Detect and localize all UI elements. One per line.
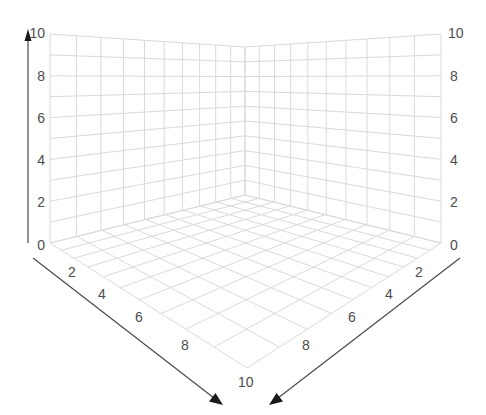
grid-line	[161, 225, 366, 314]
3d-grid-chart: 10 8 6 4 2 0 10 8 6 4 2 0 2 4 6 8 10 2 4…	[0, 0, 486, 415]
z-tick-label: 8	[37, 68, 45, 84]
right-wall-grid	[245, 34, 441, 243]
left-wall-grid	[50, 34, 245, 243]
z-tick-label: 2	[37, 194, 45, 210]
z-tick-label: 6	[37, 110, 45, 126]
z-tick-labels-left: 10 8 6 4 2 0	[29, 25, 45, 253]
y-tick-label: 8	[302, 337, 310, 353]
y-axis	[269, 258, 460, 405]
grid-line	[77, 236, 279, 347]
grid-line	[186, 230, 389, 329]
floor-grid	[50, 195, 441, 368]
x-tick-label: 2	[68, 264, 76, 280]
z-tick-label: 10	[448, 25, 464, 41]
x-tick-labels: 2 4 6 8 10	[68, 264, 254, 390]
x-tick-label: 6	[135, 309, 143, 325]
y-tick-label: 6	[348, 309, 356, 325]
grid-line	[50, 195, 245, 243]
x-tick-label: 8	[181, 337, 189, 353]
z-tick-label: 4	[37, 152, 45, 168]
x-tick-label: 10	[238, 374, 254, 390]
x-axis-arrow-icon	[209, 393, 223, 405]
y-tick-label: 2	[415, 264, 423, 280]
grid-line	[245, 195, 441, 243]
x-axis-line	[33, 258, 214, 398]
grid-line	[183, 210, 388, 277]
grid-line	[103, 210, 307, 277]
z-tick-label: 10	[29, 25, 45, 41]
y-tick-label: 4	[385, 286, 393, 302]
grid-line	[125, 225, 332, 314]
z-tick-label: 8	[450, 68, 458, 84]
z-axis	[25, 29, 32, 243]
z-tick-label: 0	[450, 237, 458, 253]
x-tick-label: 4	[98, 286, 106, 302]
x-axis	[33, 258, 223, 405]
grid-line	[245, 34, 441, 47]
grid-line	[102, 230, 308, 329]
z-tick-labels-right: 10 8 6 4 2 0	[448, 25, 464, 253]
grid-line	[50, 34, 245, 47]
z-tick-label: 2	[450, 194, 458, 210]
z-tick-label: 6	[450, 110, 458, 126]
z-tick-label: 0	[37, 237, 45, 253]
z-tick-label: 4	[450, 152, 458, 168]
y-axis-arrow-icon	[269, 393, 283, 405]
